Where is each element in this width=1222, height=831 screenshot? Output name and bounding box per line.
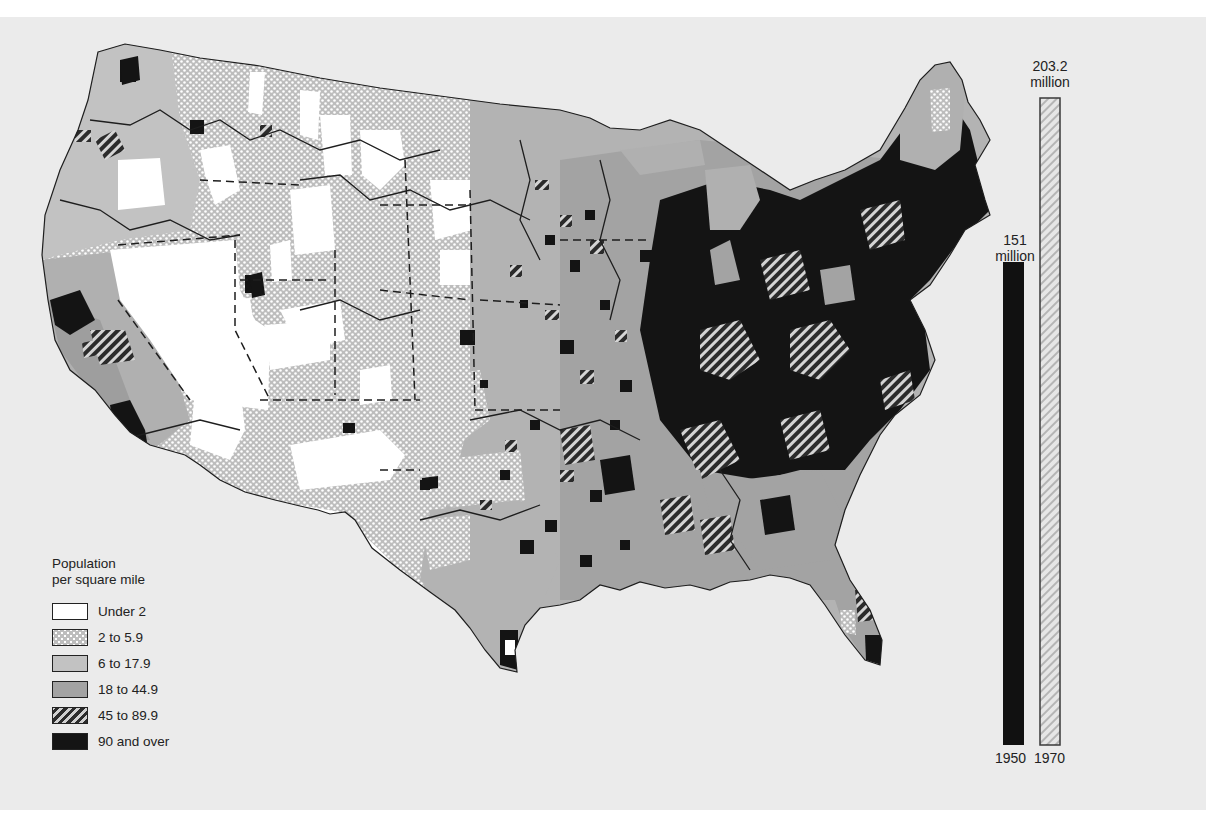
legend-label: 45 to 89.9 — [98, 708, 158, 723]
legend-item-90-and-over: 90 and over — [52, 728, 169, 754]
swatch-white — [52, 603, 88, 620]
swatch-light-gray — [52, 655, 88, 672]
bar-1950-year: 1950 — [995, 750, 1026, 766]
swatch-mid-gray — [52, 681, 88, 698]
swatch-black — [52, 733, 88, 750]
legend-title-line1: Population — [52, 556, 169, 572]
legend-item-45-to-89-9: 45 to 89.9 — [52, 702, 169, 728]
bar-1950-value: 151 million — [995, 232, 1035, 264]
bar-1950-value-number: 151 — [995, 232, 1035, 248]
bar-1970-value-unit: million — [1022, 74, 1078, 90]
legend-label: 6 to 17.9 — [98, 656, 151, 671]
us-population-density-map — [0, 0, 1222, 831]
swatch-hatched — [52, 707, 88, 724]
legend-title-line2: per square mile — [52, 572, 169, 588]
legend-item-2-to-5-9: 2 to 5.9 — [52, 624, 169, 650]
bar-1970-value-number: 203.2 — [1022, 58, 1078, 74]
legend-label: Under 2 — [98, 604, 146, 619]
bar-1950 — [1003, 262, 1024, 745]
legend-item-under-2: Under 2 — [52, 598, 169, 624]
swatch-dotted — [52, 629, 88, 646]
legend-label: 2 to 5.9 — [98, 630, 143, 645]
bar-1950-value-unit: million — [995, 248, 1035, 264]
legend-item-6-to-17-9: 6 to 17.9 — [52, 650, 169, 676]
legend-item-18-to-44-9: 18 to 44.9 — [52, 676, 169, 702]
map-fills — [0, 0, 1222, 831]
bar-1970 — [1040, 98, 1060, 745]
legend: Population per square mile Under 2 2 to … — [52, 556, 169, 754]
legend-label: 18 to 44.9 — [98, 682, 158, 697]
bar-1970-year: 1970 — [1034, 750, 1065, 766]
legend-items: Under 2 2 to 5.9 6 to 17.9 18 to 44.9 45… — [52, 598, 169, 754]
legend-title: Population per square mile — [52, 556, 169, 588]
bar-1970-value: 203.2 million — [1022, 58, 1078, 90]
legend-label: 90 and over — [98, 734, 169, 749]
